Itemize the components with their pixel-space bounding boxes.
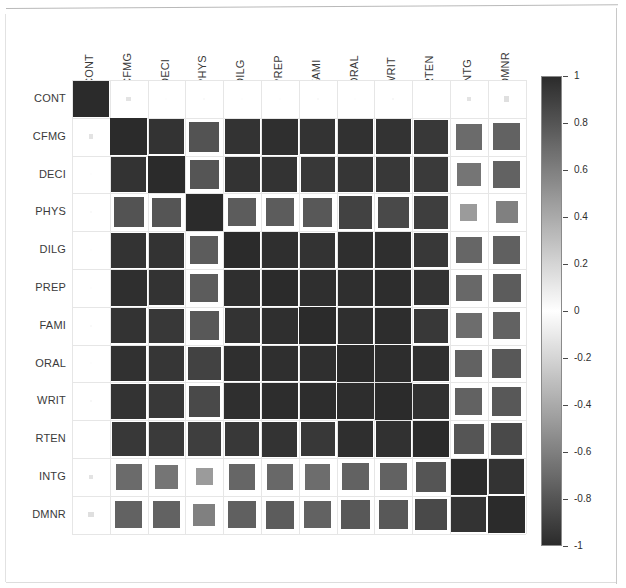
cell-square — [111, 384, 146, 419]
colorbar-tick-mark — [563, 405, 568, 406]
matrix-cell — [110, 420, 148, 458]
colorbar-tick-mark — [563, 311, 568, 312]
matrix-cell — [374, 156, 412, 194]
matrix-cell — [412, 382, 450, 420]
cell-square — [451, 497, 486, 532]
matrix-cell — [110, 231, 148, 269]
cell-square — [149, 309, 183, 343]
matrix-cell — [223, 80, 261, 118]
cell-square — [262, 346, 298, 382]
cell-square — [299, 307, 336, 344]
cell-square — [300, 233, 335, 268]
matrix-cell — [72, 307, 110, 345]
matrix-cell — [450, 193, 488, 231]
matrix-cell — [148, 307, 186, 345]
cell-square — [149, 422, 183, 456]
matrix-cell — [110, 307, 148, 345]
cell-square — [149, 270, 184, 305]
cell-square — [203, 98, 205, 100]
cell-square — [262, 232, 298, 268]
row-label-intg: INTG — [8, 470, 66, 482]
matrix-cell — [261, 80, 299, 118]
cell-square — [488, 496, 525, 533]
cell-square — [303, 198, 332, 227]
colorbar-tick-mark — [563, 217, 568, 218]
row-label-fami: FAMI — [8, 319, 66, 331]
row-label-dmnr: DMNR — [8, 508, 66, 520]
matrix-cell — [299, 458, 337, 496]
matrix-cell — [299, 382, 337, 420]
cell-square — [267, 464, 293, 490]
row-label-phys: PHYS — [8, 205, 66, 217]
cell-square — [88, 512, 93, 517]
cell-square — [414, 270, 449, 305]
matrix-cell — [299, 118, 337, 156]
matrix-cell — [72, 496, 110, 534]
cell-square — [186, 194, 223, 231]
cell-square — [262, 119, 298, 155]
cell-square — [90, 325, 92, 327]
matrix-cell — [412, 420, 450, 458]
matrix-cell — [450, 345, 488, 383]
matrix-cell — [299, 80, 337, 118]
matrix-cell — [412, 458, 450, 496]
matrix-cell — [148, 345, 186, 383]
row-label-dilg: DILG — [8, 243, 66, 255]
matrix-cell — [148, 156, 186, 194]
matrix-cell — [185, 231, 223, 269]
cell-square — [300, 270, 336, 306]
cell-square — [90, 287, 92, 289]
cell-square — [279, 98, 281, 100]
matrix-cell — [374, 345, 412, 383]
cell-square — [451, 459, 488, 496]
cell-square — [115, 501, 142, 528]
cell-square — [414, 120, 448, 154]
cell-square — [375, 232, 411, 268]
cell-square — [300, 119, 335, 154]
matrix-cell — [261, 458, 299, 496]
matrix-cell — [110, 458, 148, 496]
colorbar-tick-label: -0.2 — [574, 352, 591, 363]
matrix-cell — [185, 80, 223, 118]
matrix-cell — [261, 156, 299, 194]
cell-square — [430, 98, 432, 100]
cell-square — [338, 119, 374, 155]
colorbar-tick-label: 1 — [574, 70, 580, 81]
cell-square — [376, 157, 410, 191]
cell-square — [493, 161, 520, 188]
cell-square — [90, 249, 92, 251]
cell-square — [301, 157, 335, 191]
matrix-cell — [412, 496, 450, 534]
matrix-cell — [110, 382, 148, 420]
cell-square — [338, 308, 374, 344]
colorbar-tick-mark — [563, 452, 568, 453]
cell-square — [304, 501, 331, 528]
row-label-deci: DECI — [8, 168, 66, 180]
cell-square — [225, 119, 260, 154]
cell-square — [89, 134, 94, 139]
matrix-cell — [223, 156, 261, 194]
cell-square — [392, 98, 394, 100]
cell-square — [496, 201, 518, 223]
cell-square — [228, 198, 256, 226]
matrix-cell — [185, 345, 223, 383]
cell-square — [456, 313, 481, 338]
matrix-cell — [412, 307, 450, 345]
matrix-cell — [185, 118, 223, 156]
matrix-cell — [299, 496, 337, 534]
cell-square — [229, 464, 255, 490]
cell-square — [148, 156, 185, 193]
cell-square — [300, 346, 336, 382]
matrix-cell — [337, 269, 375, 307]
matrix-cell — [337, 118, 375, 156]
matrix-cell — [337, 382, 375, 420]
matrix-cell — [450, 496, 488, 534]
cell-square — [224, 383, 260, 419]
cell-square — [190, 274, 218, 302]
matrix-cell — [374, 420, 412, 458]
cell-square — [149, 346, 184, 381]
matrix-cell — [412, 80, 450, 118]
matrix-cell — [299, 193, 337, 231]
cell-square — [196, 468, 213, 485]
cell-square — [89, 475, 94, 480]
